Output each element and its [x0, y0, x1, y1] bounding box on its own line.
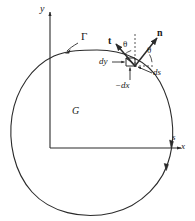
vector-calculus-diagram: y x Γ G s t n θ θ dy −dx ds [0, 0, 195, 221]
tangent-vector-label-t: t [108, 36, 111, 46]
normal-vector-arrow [135, 38, 157, 66]
angle-arc-theta-left [125, 51, 132, 55]
boundary-point-marker [134, 65, 136, 67]
angle-label-theta-right: θ [147, 46, 151, 55]
region-label-g: G [72, 106, 79, 116]
boundary-curve-gamma [11, 50, 173, 215]
curve-label-gamma: Γ [81, 31, 87, 42]
normal-vector-label-n: n [157, 28, 163, 38]
ds-label: ds [153, 68, 161, 77]
diagram-canvas [0, 0, 195, 221]
ds-measure-arrow [138, 67, 152, 73]
y-axis-label: y [40, 4, 44, 14]
curve-orientation-arrow [164, 140, 173, 171]
x-axis-label: x [181, 142, 185, 151]
ds-segment [126, 58, 135, 66]
dx-label: −dx [115, 81, 130, 90]
boundary-point-detail [112, 34, 157, 80]
angle-label-theta-left: θ [123, 40, 127, 49]
dy-label: dy [99, 57, 108, 66]
arclength-label-s: s [172, 133, 176, 142]
angle-arc-theta-right [150, 55, 153, 63]
